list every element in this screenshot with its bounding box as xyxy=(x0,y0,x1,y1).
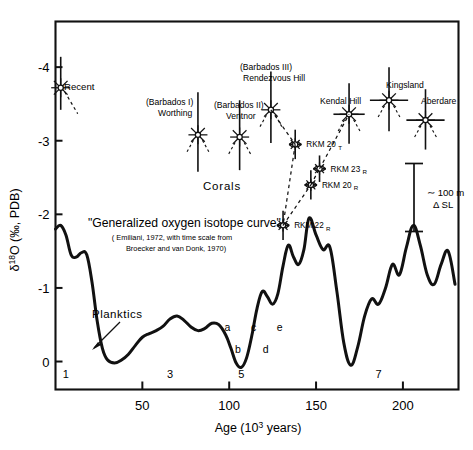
coral-label-line-2: Kingsland xyxy=(386,80,424,90)
citation-line-1: ( Emiliani, 1972, with time scale from xyxy=(112,233,232,242)
rkm-label-subscript: R xyxy=(354,184,359,191)
substage-label: c xyxy=(251,321,256,333)
y-axis-title-rest: O (‰, PDB) xyxy=(8,188,22,255)
coral-label-line-1: (Barbados II) xyxy=(214,100,264,110)
rkm-label-name: RKM 20 xyxy=(306,140,338,149)
annotation-planktics: Planktics xyxy=(92,308,143,320)
coral-marker-dot xyxy=(195,132,200,137)
coral-marker-dot xyxy=(386,98,391,103)
curve-title: "Generalized oxygen isotope curve" xyxy=(88,216,281,230)
stage-label: 5 xyxy=(238,368,244,380)
stage-label: 3 xyxy=(167,368,173,380)
x-tick-label: 50 xyxy=(135,398,149,413)
rkm-label: RKM 22 R xyxy=(294,221,331,231)
stage-label: 7 xyxy=(376,368,382,380)
y-tick-label: -1 xyxy=(38,281,50,296)
y-tick-label: -4 xyxy=(38,60,50,75)
coral-label-line-2: Rendezvous Hill xyxy=(243,73,305,83)
coral-label-line-1: (Barbados I) xyxy=(146,97,193,107)
coral-label-line-2: Worthing xyxy=(158,108,192,118)
coral-label-line-1: (Barbados III) xyxy=(240,62,292,72)
annotation-recent: Recent xyxy=(64,81,95,92)
y-axis-title-delta: δ xyxy=(8,265,22,272)
x-axis-title-tail: years) xyxy=(263,421,301,435)
coral-label-line-2: Ventnor xyxy=(226,111,256,121)
substage-label: a xyxy=(225,321,231,333)
figure-canvas: -4-3-2-10 50100150200 (Barbados I)Worthi… xyxy=(0,0,473,450)
coral-label-line-2: Aberdare xyxy=(421,96,457,106)
stage-label: 1 xyxy=(63,368,69,380)
isotope-figure: -4-3-2-10 50100150200 (Barbados I)Worthi… xyxy=(0,0,473,450)
y-tick-label: -3 xyxy=(38,134,50,149)
x-tick-label: 200 xyxy=(392,398,414,413)
coral-marker-dot xyxy=(237,134,242,139)
rkm-label-subscript: R xyxy=(326,225,331,232)
x-axis-title-main: Age (10 xyxy=(215,421,259,435)
coral-label-line-2: Kendal Hill xyxy=(320,96,361,106)
rkm-label: RKM 23 R xyxy=(331,165,368,175)
annotation-corals: Corals xyxy=(203,180,241,192)
scale-bar-label-1: ∼ 100 m xyxy=(427,187,464,198)
coral-marker-dot xyxy=(58,85,63,90)
y-tick-label: -2 xyxy=(38,207,50,222)
substage-label: b xyxy=(235,343,241,355)
y-tick-label: 0 xyxy=(42,355,49,370)
rkm-label-name: RKM 23 xyxy=(331,165,363,174)
rkm-label-name: RKM 22 xyxy=(294,221,326,230)
x-axis-title: Age (103 years) xyxy=(215,420,302,435)
rkm-label-subscript: R xyxy=(362,168,367,175)
rkm-label-name: RKM 20 xyxy=(322,181,354,190)
y-axis-title-sup: 18 xyxy=(7,255,17,265)
scale-bar-label-2: Δ SL xyxy=(433,199,454,210)
x-tick-label: 100 xyxy=(218,398,240,413)
rkm-label-subscript: T xyxy=(338,144,342,151)
rkm-label: RKM 20 R xyxy=(322,181,359,191)
coral-marker-dot xyxy=(423,118,428,123)
x-tick-label: 150 xyxy=(305,398,327,413)
rkm-label: RKM 20 T xyxy=(306,140,342,150)
substage-label: e xyxy=(277,321,283,333)
substage-label: d xyxy=(263,343,269,355)
citation-line-2: Broecker and van Donk, 1970) xyxy=(126,244,226,253)
